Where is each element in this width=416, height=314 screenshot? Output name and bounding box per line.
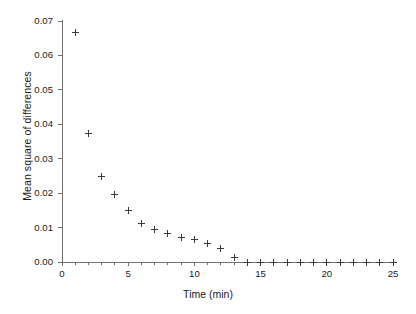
y-tick-label: 0.03 [19, 153, 53, 164]
x-tick-minor [75, 262, 76, 265]
x-tick-major [128, 262, 129, 266]
data-point-marker [217, 245, 224, 252]
x-tick-label: 20 [312, 268, 342, 279]
data-point-marker [376, 259, 383, 266]
x-tick-major [194, 262, 195, 266]
data-point-marker [191, 236, 198, 243]
y-axis-title: Mean square of differences [21, 36, 33, 236]
y-tick-label: 0.06 [19, 49, 53, 60]
data-point-marker [270, 259, 277, 266]
data-point-marker [350, 259, 357, 266]
data-point-marker [231, 254, 238, 261]
x-tick-label: 25 [378, 268, 408, 279]
x-tick-label: 0 [47, 268, 77, 279]
data-point-marker [337, 259, 344, 266]
x-tick-minor [154, 262, 155, 265]
y-tick-label: 0.01 [19, 222, 53, 233]
y-tick-label: 0.05 [19, 84, 53, 95]
data-point-marker [204, 240, 211, 247]
x-tick-minor [181, 262, 182, 265]
data-point-marker [284, 259, 291, 266]
y-tick-label: 0.02 [19, 187, 53, 198]
y-tick [58, 227, 62, 228]
data-point-marker [125, 207, 132, 214]
data-point-marker [310, 259, 317, 266]
data-point-marker [323, 259, 330, 266]
data-point-marker [244, 259, 251, 266]
x-tick-label: 10 [179, 268, 209, 279]
data-point-marker [297, 259, 304, 266]
y-tick-label: 0.00 [19, 256, 53, 267]
x-axis-title: Time (min) [0, 288, 416, 300]
plot-area [62, 21, 393, 262]
x-tick-major [62, 262, 63, 266]
x-tick-minor [220, 262, 221, 265]
y-tick-label: 0.04 [19, 118, 53, 129]
x-tick-minor [88, 262, 89, 265]
x-tick-minor [141, 262, 142, 265]
data-point-marker [257, 259, 264, 266]
data-point-marker [178, 234, 185, 241]
y-tick [58, 21, 62, 22]
data-point-marker [72, 29, 79, 36]
data-point-marker [111, 191, 118, 198]
data-point-marker [390, 259, 397, 266]
data-point-marker [85, 130, 92, 137]
data-point-marker [363, 259, 370, 266]
x-tick-minor [114, 262, 115, 265]
x-tick-minor [101, 262, 102, 265]
data-point-marker [138, 220, 145, 227]
y-tick [58, 124, 62, 125]
y-tick-label: 0.07 [19, 15, 53, 26]
data-point-marker [151, 226, 158, 233]
x-tick-minor [167, 262, 168, 265]
x-tick-label: 5 [113, 268, 143, 279]
y-tick [58, 89, 62, 90]
x-tick-label: 15 [246, 268, 276, 279]
data-point-marker [98, 173, 105, 180]
y-tick [58, 158, 62, 159]
x-tick-minor [234, 262, 235, 265]
scatter-chart-figure: Mean square of differences 0.000.010.020… [0, 0, 416, 314]
y-tick [58, 55, 62, 56]
y-tick [58, 193, 62, 194]
x-tick-minor [207, 262, 208, 265]
data-point-marker [164, 230, 171, 237]
